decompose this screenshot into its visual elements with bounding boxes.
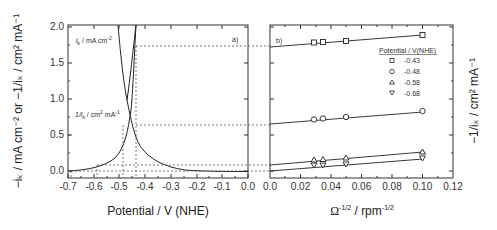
xtick-label: 0.04 xyxy=(321,181,341,192)
ytick-label: 1.5 xyxy=(50,57,64,68)
circle-marker-icon xyxy=(390,69,394,73)
xtick-label: 0.0 xyxy=(263,181,277,192)
xtick-label: 0.02 xyxy=(291,181,311,192)
inv-ik-annotation: 1/ik / cm2 mA-1 xyxy=(75,109,120,120)
panel-b-x-axis-label: Ω-1/2 / rpm-1/2 xyxy=(330,204,394,218)
xtick-label: 0.06 xyxy=(352,181,372,192)
legend-title: Potential / V(NHE) xyxy=(379,47,436,55)
ytick-label: 1.0 xyxy=(50,93,64,104)
panel-a-xticks xyxy=(68,25,248,178)
ik-curve xyxy=(68,25,136,171)
ytick-label: 2.0 xyxy=(50,21,64,32)
xtick-label: 0.0 xyxy=(241,181,255,192)
panel-b-xtick-labels: 0.0 0.02 0.04 0.06 0.08 0.10 0.12 xyxy=(263,181,463,192)
ytick-label: 0.5 xyxy=(50,129,64,140)
xtick-label: -0.4 xyxy=(136,181,154,192)
panel-b-fit-lines xyxy=(270,35,423,171)
panel-b-label: b) xyxy=(276,37,282,45)
panel-a-frame xyxy=(68,25,248,178)
ik-annotation: ik / mA cm-2 xyxy=(76,35,112,46)
legend: Potential / V(NHE) -0.43 -0.48 -0.58 -0.… xyxy=(379,47,437,97)
ytick-label: 0.0 xyxy=(50,165,64,176)
panel-a-ytick-labels: 0.0 0.5 1.0 1.5 2.0 xyxy=(50,21,64,176)
series-043-markers xyxy=(312,33,426,46)
panel-a-xtick-labels: -0.7 -0.6 -0.5 -0.4 -0.3 -0.2 -0.1 0.0 xyxy=(59,181,255,192)
panel-a-label: a) xyxy=(232,36,238,44)
xtick-label: -0.7 xyxy=(59,181,77,192)
legend-item: -0.58 xyxy=(404,79,420,86)
ik-curve-upper xyxy=(118,25,127,100)
series-048-markers xyxy=(311,108,425,122)
xtick-label: -0.1 xyxy=(213,181,231,192)
legend-item: -0.48 xyxy=(404,68,420,75)
panel-a-curves xyxy=(68,25,248,172)
xtick-label: -0.2 xyxy=(188,181,206,192)
xtick-label: -0.5 xyxy=(110,181,128,192)
left-y-axis-label: −iₖ / mA cm⁻² or −1/iₖ / cm² mA⁻¹ xyxy=(11,14,25,189)
xtick-label: 0.08 xyxy=(382,181,402,192)
figure: 0.0 0.5 1.0 1.5 2.0 -0.7 -0.6 -0.5 -0.4 … xyxy=(0,0,497,230)
xtick-label: 0.12 xyxy=(443,181,463,192)
legend-item: -0.43 xyxy=(404,57,420,64)
inv-ik-curve-rise xyxy=(127,25,136,100)
legend-item: -0.68 xyxy=(404,90,420,97)
xtick-label: 0.10 xyxy=(413,181,433,192)
xtick-label: -0.6 xyxy=(85,181,103,192)
panel-a-yticks xyxy=(68,27,248,171)
triangle-up-marker-icon xyxy=(390,80,395,84)
panel-a-x-axis-label: Potential / V (NHE) xyxy=(107,204,208,218)
xtick-label: -0.3 xyxy=(162,181,180,192)
inv-ik-curve xyxy=(127,100,248,172)
right-y-axis-label: −1/iₖ / cm² mA⁻¹ xyxy=(467,58,481,144)
square-marker-icon xyxy=(390,59,394,63)
triangle-down-marker-icon xyxy=(390,91,395,95)
